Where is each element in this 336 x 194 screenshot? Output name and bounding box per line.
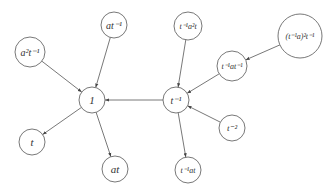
node-at: at [102,156,128,182]
edge-tinva2tinv-to-tinvatinv [246,45,280,60]
node-one: 1 [79,87,105,113]
node-a2tinv: a²t⁻¹ [15,37,45,67]
node-t: t [19,129,45,155]
node-tinvatinv: t⁻¹at⁻¹ [217,51,247,81]
node-tinva2t: t⁻¹a²t [174,12,202,40]
graph-canvas: 1t⁻¹a²t⁻¹at⁻¹t⁻¹a²tt⁻¹at⁻¹(t⁻¹a)²t⁻¹t⁻²t… [0,0,336,194]
edges-layer [42,38,280,158]
node-label: t⁻² [227,123,238,133]
edge-atinv-to-one [96,38,111,88]
node-label: a²t⁻¹ [21,47,40,58]
node-label: t⁻¹ [171,95,182,106]
edge-tinvatinv-to-tinv [187,74,219,94]
node-tinv: t⁻¹ [163,87,189,113]
node-label: t⁻¹a²t [179,22,197,31]
node-tm2: t⁻² [219,115,245,141]
node-label: (t⁻¹a)²t⁻¹ [286,32,316,41]
edge-tm2-to-tinv [188,106,221,122]
node-label: 1 [89,94,95,106]
node-tinvat: t⁻¹at [175,157,201,183]
nodes-layer: 1t⁻¹a²t⁻¹at⁻¹t⁻¹a²tt⁻¹at⁻¹(t⁻¹a)²t⁻¹t⁻²t… [15,12,322,183]
edge-tinv-to-tinvat [178,113,186,157]
edge-one-to-t [43,108,82,135]
edge-tinva2t-to-tinv [178,40,186,87]
node-tinva2tinv: (t⁻¹a)²t⁻¹ [278,14,322,58]
edge-a2tinv-to-one [42,61,82,92]
node-label: t⁻¹at [181,166,197,175]
node-label: at⁻¹ [106,20,122,31]
graph-svg: 1t⁻¹a²t⁻¹at⁻¹t⁻¹a²tt⁻¹at⁻¹(t⁻¹a)²t⁻¹t⁻²t… [0,0,336,194]
node-label: at [111,163,121,175]
node-label: t⁻¹at⁻¹ [221,62,243,71]
node-atinv: at⁻¹ [101,12,127,38]
edge-one-to-at [96,112,111,156]
